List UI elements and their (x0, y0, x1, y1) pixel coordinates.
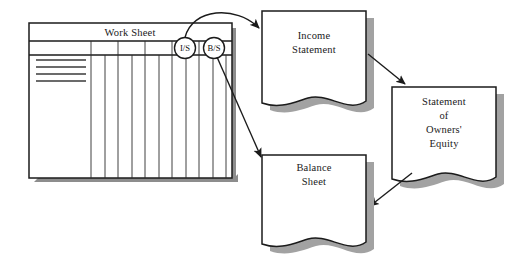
income-statement-page (262, 11, 366, 106)
owners-equity-label: Statement (422, 96, 466, 107)
is-tag-label: I/S (180, 43, 190, 53)
owners-equity-label: Equity (429, 138, 459, 149)
income-statement-label: Statement (292, 44, 336, 55)
diagram-canvas: Work Sheet (0, 0, 513, 261)
accounting-flow-diagram: Work Sheet (0, 0, 513, 261)
balance-sheet-label: Sheet (302, 176, 326, 187)
worksheet-body (29, 23, 232, 178)
owners-equity-label: Owners' (426, 124, 462, 135)
worksheet-tag-bs: B/S (204, 38, 225, 59)
bs-tag-label: B/S (208, 43, 221, 53)
balance-sheet-label: Balance (296, 162, 331, 173)
balance-sheet-document: Balance Sheet (262, 155, 374, 254)
income-statement-document: Income Statement (262, 11, 374, 113)
owners-equity-document: Statement of Owners' Equity (392, 87, 504, 189)
owners-equity-label: of (439, 110, 448, 121)
income-statement-label: Income (298, 30, 331, 41)
worksheet-title: Work Sheet (104, 27, 155, 38)
connector-owners-equity-to-balance-sheet (370, 173, 412, 206)
worksheet-group: Work Sheet (29, 23, 238, 182)
worksheet-tag-is: I/S (175, 38, 196, 59)
